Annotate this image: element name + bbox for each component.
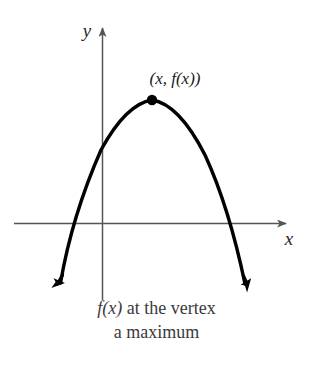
- vertex-point-dot: [147, 95, 157, 105]
- caption-line-2: a maximum: [0, 321, 313, 345]
- y-axis-label: y: [81, 20, 92, 41]
- x-axis-label: x: [284, 228, 294, 249]
- parabola-figure: (x, f(x)) y x f(x) at the vertex a maxim…: [0, 0, 313, 365]
- caption-line-1: f(x) at the vertex: [0, 297, 313, 321]
- caption: f(x) at the vertex a maximum: [0, 297, 313, 345]
- caption-line-1-text: at the vertex: [122, 298, 215, 318]
- caption-function-notation: f(x): [97, 298, 122, 318]
- parabola-curve: [61, 100, 246, 284]
- vertex-point-label: (x, f(x)): [150, 69, 201, 88]
